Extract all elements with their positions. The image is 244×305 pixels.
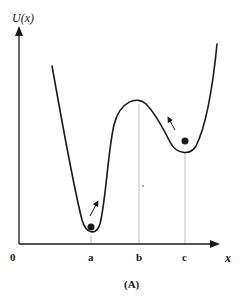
arrow-c-icon — [169, 119, 175, 130]
tick-label-a: a — [88, 252, 94, 263]
tick-label-b: b — [136, 252, 142, 263]
x-axis-label: x — [225, 252, 231, 264]
figure-caption: (A) — [124, 279, 139, 290]
origin-label: 0 — [10, 252, 16, 263]
arrow-a-icon — [90, 203, 97, 216]
x-axis-arrow-icon — [210, 240, 220, 248]
potential-diagram — [0, 0, 244, 305]
particle-a — [88, 224, 95, 231]
y-axis-label: U(x) — [12, 12, 34, 24]
particle-c — [182, 138, 189, 145]
y-axis-arrow-icon — [15, 26, 23, 36]
tick-label-c: c — [182, 252, 187, 263]
speck — [142, 185, 144, 187]
potential-curve — [52, 44, 217, 232]
